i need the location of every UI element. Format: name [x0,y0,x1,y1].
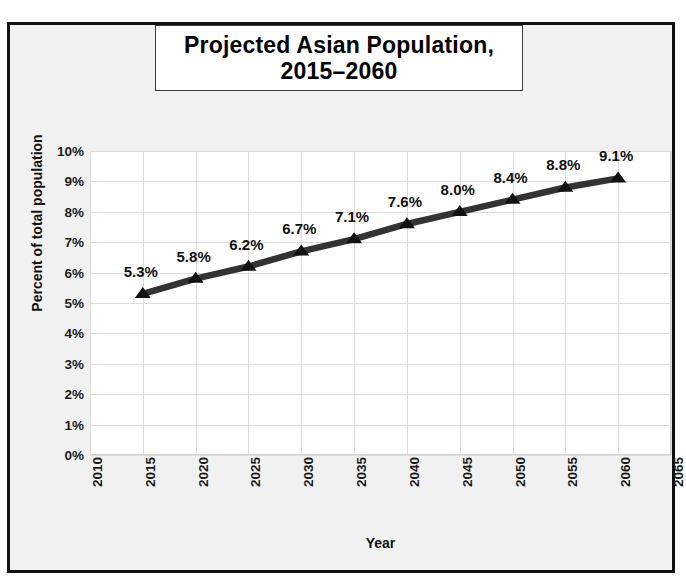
chart-title-line-1: Projected Asian Population, [184,32,494,58]
data-point-label: 5.8% [177,248,211,265]
y-axis-tick-label: 4% [38,326,84,341]
x-axis-tick-label: 2020 [195,457,210,487]
gridline-horizontal [90,455,671,456]
series-line [143,178,618,294]
gridline-vertical [671,151,672,455]
y-axis-tick-label: 0% [38,448,84,463]
data-point-label: 5.3% [124,263,158,280]
x-axis-tick-label: 2015 [142,457,157,487]
y-axis-ticks: 0%1%2%3%4%5%6%7%8%9%10% [36,151,84,455]
data-point-label: 8.4% [493,169,527,186]
y-axis-tick-label: 6% [38,265,84,280]
x-axis-tick-label: 2060 [618,457,633,487]
x-axis-ticks: 2010201520202025203020352040204520502055… [90,457,671,529]
x-axis-tick-label: 2035 [354,457,369,487]
data-point-label: 7.6% [388,193,422,210]
y-axis-tick-label: 7% [38,235,84,250]
x-axis-tick-label: 2055 [565,457,580,487]
x-axis-tick-label: 2045 [459,457,474,487]
x-axis-tick-label: 2065 [671,457,686,487]
data-point-label: 6.7% [282,220,316,237]
data-series [90,151,671,455]
data-point-label: 7.1% [335,208,369,225]
x-axis-tick-label: 2030 [301,457,316,487]
data-point-label: 6.2% [229,236,263,253]
y-axis-tick-label: 2% [38,387,84,402]
plot-area: 5.3%5.8%6.2%6.7%7.1%7.6%8.0%8.4%8.8%9.1% [90,151,671,455]
chart-title-box: Projected Asian Population, 2015–2060 [155,25,523,91]
chart-title-line-2: 2015–2060 [281,58,398,84]
data-point-label: 8.8% [546,156,580,173]
y-axis-tick-label: 1% [38,417,84,432]
data-point-label: 8.0% [441,181,475,198]
chart-frame: Projected Asian Population, 2015–2060 Pe… [7,22,675,573]
y-axis-tick-label: 3% [38,356,84,371]
y-axis-tick-label: 8% [38,204,84,219]
data-point-label: 9.1% [599,147,633,164]
x-axis-tick-label: 2050 [512,457,527,487]
x-axis-tick-label: 2010 [90,457,105,487]
x-axis-tick-label: 2040 [406,457,421,487]
y-axis-tick-label: 10% [38,144,84,159]
x-axis-tick-label: 2025 [248,457,263,487]
y-axis-tick-label: 5% [38,296,84,311]
y-axis-tick-label: 9% [38,174,84,189]
x-axis-title: Year [90,535,671,551]
